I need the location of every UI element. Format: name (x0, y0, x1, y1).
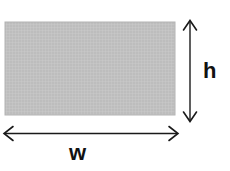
rectangle-dimensions-diagram (0, 0, 230, 171)
height-label: h (203, 60, 216, 82)
diagram-canvas: h w (0, 0, 230, 171)
rectangle-shape (5, 22, 175, 115)
width-label: w (69, 142, 86, 164)
height-dimension-arrow (184, 21, 197, 122)
width-dimension-arrow (4, 127, 178, 141)
